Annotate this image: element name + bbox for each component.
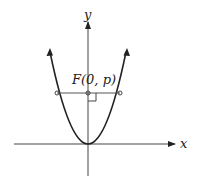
parabola-diagram: y x F(0, p) [0,0,198,185]
curve-arrow-left-icon [47,48,54,56]
x-axis-label: x [180,136,188,151]
focus-label: F(0, p) [71,72,116,87]
curve-arrow-right-icon [124,48,131,56]
y-axis-label: y [83,7,92,22]
